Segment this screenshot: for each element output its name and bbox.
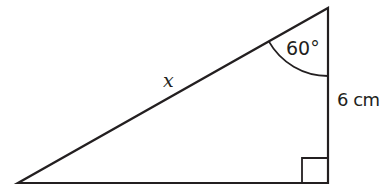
triangle-diagram: 60° 6 cm x <box>0 0 390 188</box>
side-length-label: 6 cm <box>337 89 380 110</box>
hypotenuse-label: x <box>163 69 174 91</box>
right-angle-marker <box>302 158 328 183</box>
right-triangle <box>18 8 328 183</box>
angle-label: 60° <box>286 37 320 59</box>
